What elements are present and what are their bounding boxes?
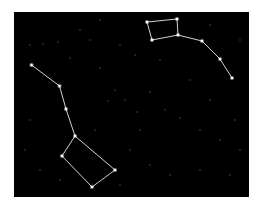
faint-star — [29, 119, 30, 120]
star — [219, 58, 222, 61]
faint-star — [189, 79, 190, 80]
faint-star — [234, 119, 235, 120]
star — [146, 21, 149, 24]
faint-star — [149, 164, 150, 165]
faint-star — [94, 129, 95, 130]
faint-star — [136, 111, 137, 112]
star — [177, 34, 180, 37]
faint-star — [199, 169, 200, 170]
faint-star — [107, 100, 108, 101]
faint-star — [134, 54, 135, 55]
faint-star — [164, 109, 165, 110]
faint-star — [199, 129, 200, 130]
star — [30, 64, 33, 67]
star — [91, 186, 94, 189]
night-sky-constellations — [0, 0, 263, 208]
star — [114, 169, 117, 172]
faint-star — [139, 129, 140, 130]
faint-star — [57, 41, 58, 42]
star — [61, 155, 64, 158]
faint-star — [24, 149, 25, 150]
faint-star — [209, 24, 210, 25]
faint-star — [179, 117, 180, 118]
faint-star — [229, 174, 230, 175]
star — [151, 39, 154, 42]
faint-star — [209, 99, 210, 100]
star — [74, 135, 77, 138]
star — [176, 18, 179, 21]
star — [201, 40, 204, 43]
faint-star — [124, 99, 125, 100]
star — [65, 108, 68, 111]
faint-star — [119, 184, 120, 185]
faint-star — [129, 149, 130, 150]
faint-star — [69, 57, 70, 58]
faint-star — [114, 89, 115, 90]
faint-star — [119, 44, 120, 45]
faint-star — [89, 39, 90, 40]
faint-star — [159, 59, 160, 60]
faint-star — [219, 139, 220, 140]
faint-star — [42, 43, 43, 44]
faint-star — [239, 149, 240, 150]
faint-star — [79, 29, 80, 30]
star — [231, 77, 234, 80]
star — [58, 85, 61, 88]
faint-star — [99, 19, 100, 20]
faint-star — [39, 169, 40, 170]
faint-star — [29, 44, 30, 45]
faint-star — [59, 179, 60, 180]
sky-background — [14, 12, 249, 197]
faint-star — [239, 39, 240, 40]
faint-star — [169, 174, 170, 175]
faint-star — [99, 67, 100, 68]
faint-star — [149, 91, 150, 92]
